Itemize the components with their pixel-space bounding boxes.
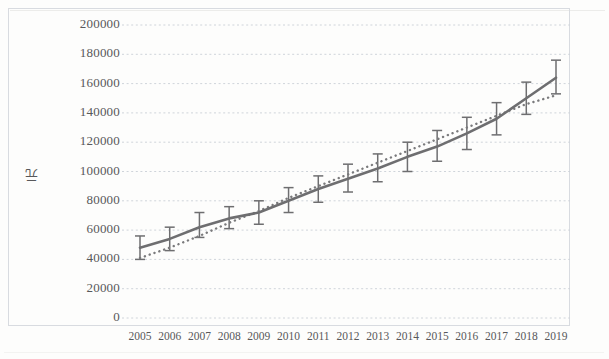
plot-area xyxy=(128,25,568,318)
x-tick-label: 2015 xyxy=(426,330,449,342)
scanned-figure-page: 元 02000040000600008000010000012000014000… xyxy=(0,0,609,359)
x-tick-label: 2012 xyxy=(337,330,360,342)
x-tick-label: 2008 xyxy=(218,330,241,342)
x-tick-label: 2005 xyxy=(129,330,152,342)
y-axis-title: 元 xyxy=(22,168,41,182)
x-tick-label: 2019 xyxy=(545,330,568,342)
x-tick-label: 2010 xyxy=(277,330,300,342)
x-tick-label: 2013 xyxy=(366,330,389,342)
x-tick-label: 2016 xyxy=(455,330,478,342)
x-tick-label: 2009 xyxy=(247,330,270,342)
x-axis-tick-labels: 2005200620072008200920102011201220132014… xyxy=(128,330,568,350)
scan-artifact-bottom xyxy=(4,352,604,353)
gridlines-group xyxy=(122,25,570,318)
x-tick-label: 2007 xyxy=(188,330,211,342)
x-tick-label: 2017 xyxy=(485,330,508,342)
x-tick-label: 2018 xyxy=(515,330,538,342)
series-canvas xyxy=(128,25,568,318)
x-tick-label: 2011 xyxy=(307,330,330,342)
error-bars-group xyxy=(135,60,561,259)
x-tick-label: 2006 xyxy=(158,330,181,342)
x-tick-label: 2014 xyxy=(396,330,419,342)
